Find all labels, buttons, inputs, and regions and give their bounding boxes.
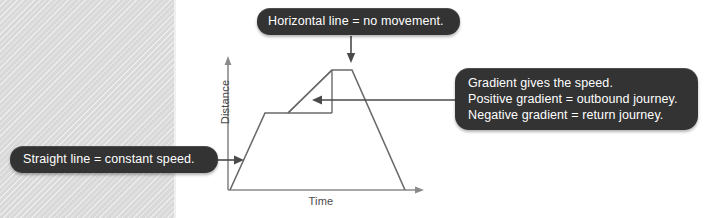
y-axis-label: Distance xyxy=(219,72,231,132)
x-axis xyxy=(228,187,424,194)
callout-horizontal-line: Horizontal line = no movement. xyxy=(257,8,460,35)
callout-straight-text: Straight line = constant speed. xyxy=(23,151,218,167)
arrow-gradient-callout xyxy=(312,96,455,105)
callout-gradient-line-3: Negative gradient = return journey. xyxy=(468,107,698,123)
x-axis-label: Time xyxy=(291,195,351,207)
gradient-triangle xyxy=(288,70,332,113)
diagram-page: Distance Time Horizontal line = no movem… xyxy=(0,0,712,218)
callout-gradient: Gradient gives the speed. Positive gradi… xyxy=(455,68,698,130)
callout-straight-line: Straight line = constant speed. xyxy=(10,146,218,173)
callout-gradient-line-1: Gradient gives the speed. xyxy=(468,75,698,91)
journey-curve xyxy=(230,70,405,190)
callout-horizontal-text: Horizontal line = no movement. xyxy=(268,13,460,29)
callout-gradient-line-2: Positive gradient = outbound journey. xyxy=(468,91,698,107)
arrow-horizontal-callout xyxy=(347,36,355,63)
